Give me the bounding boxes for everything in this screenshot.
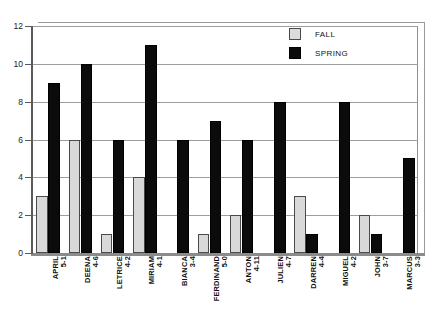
x-axis-label-age: 3-4 <box>189 256 197 322</box>
bar-group <box>262 26 286 253</box>
bar-miguel-spring <box>339 102 351 253</box>
x-axis-label-age: 4-1 <box>157 256 165 322</box>
x-axis-label-age: 4-2 <box>350 256 358 322</box>
x-axis-tick-labels: APRIL5-1DEENA4-6LETRICE4-2MIRIAM4-1BIANC… <box>31 256 418 327</box>
x-axis-label: MIGUEL4-2 <box>342 256 359 322</box>
bar-anton-fall <box>230 215 242 253</box>
x-axis-label-age: 4-2 <box>125 256 133 322</box>
bar-chart: 024681012 APRIL5-1DEENA4-6LETRICE4-2MIRI… <box>0 0 446 327</box>
bar-deena-fall <box>69 140 81 254</box>
x-axis-label: DARREN4-4 <box>310 256 327 322</box>
bar-julien-spring <box>274 102 286 253</box>
bar-darren-spring <box>306 234 318 253</box>
x-axis-label: FERDINAND5-0 <box>213 256 230 322</box>
legend-label-spring: SPRING <box>315 49 348 58</box>
x-axis-label: JOHN3-7 <box>374 256 391 322</box>
bar-letrice-fall <box>101 234 113 253</box>
x-axis-label: ANTON4-11 <box>245 256 262 322</box>
x-axis-label: DEENA4-6 <box>84 256 101 322</box>
x-axis-label-age: 5-1 <box>60 256 68 322</box>
bar-ferdinand-spring <box>210 121 222 253</box>
bar-group <box>198 26 222 253</box>
bar-group <box>101 26 125 253</box>
bar-marcus-spring <box>403 158 415 253</box>
legend-label-fall: FALL <box>315 30 335 39</box>
bar-darren-fall <box>294 196 306 253</box>
y-axis-tick-label: 2 <box>1 211 23 219</box>
y-axis-tick-label: 6 <box>1 136 23 144</box>
bar-group <box>133 26 157 253</box>
y-axis-tick-label: 8 <box>1 98 23 106</box>
bar-group <box>165 26 189 253</box>
y-axis-tick-label: 0 <box>1 249 23 257</box>
x-axis-label-age: 3-3 <box>415 256 423 322</box>
bar-group <box>36 26 60 253</box>
bar-anton-spring <box>242 140 254 254</box>
bar-bianca-spring <box>177 140 189 254</box>
bar-miriam-fall <box>133 177 145 253</box>
x-axis-label-age: 4-7 <box>286 256 294 322</box>
bar-group <box>69 26 93 253</box>
x-axis-label-age: 4-6 <box>92 256 100 322</box>
x-axis-label-age: 4-4 <box>318 256 326 322</box>
legend: FALL SPRING <box>289 26 399 62</box>
bar-april-fall <box>36 196 48 253</box>
bar-john-fall <box>359 215 371 253</box>
y-axis-tick-label: 12 <box>1 22 23 30</box>
x-axis-label: MARCUS3-3 <box>406 256 423 322</box>
bar-deena-spring <box>81 64 93 253</box>
spring-swatch-icon <box>289 47 301 59</box>
x-axis-label-age: 5-0 <box>221 256 229 322</box>
x-axis-label: JULIEN4-7 <box>277 256 294 322</box>
x-axis-label-age: 3-7 <box>383 256 391 322</box>
x-axis-label: LETRICE4-2 <box>116 256 133 322</box>
bar-group <box>230 26 254 253</box>
bar-miriam-spring <box>145 45 157 253</box>
bar-john-spring <box>371 234 383 253</box>
y-axis-tick-label: 10 <box>1 60 23 68</box>
y-axis-tick-label: 4 <box>1 173 23 181</box>
bar-ferdinand-fall <box>198 234 210 253</box>
x-axis-label-age: 4-11 <box>254 256 262 322</box>
y-axis-tick-labels: 024681012 <box>0 0 23 327</box>
x-axis-label: APRIL5-1 <box>52 256 69 322</box>
x-axis-label: BIANCA3-4 <box>181 256 198 322</box>
x-axis-label: MIRIAM4-1 <box>148 256 165 322</box>
bar-april-spring <box>48 83 60 253</box>
fall-swatch-icon <box>289 28 301 40</box>
bar-letrice-spring <box>113 140 125 254</box>
